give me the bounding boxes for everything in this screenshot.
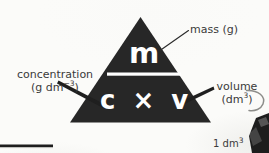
label-volume-unit-prefix: (dm [221, 93, 243, 106]
label-volume: volume (dm3) [212, 80, 262, 106]
label-mass: mass (g) [190, 23, 238, 36]
label-concentration-unit-prefix: (g dm [31, 81, 63, 94]
label-concentration: concentration (g dm−3) [7, 68, 103, 94]
figure-canvas: m c × v mass (g) concentration (g dm−3) … [0, 0, 269, 153]
triangle-denominator-c-times-v: c × v [100, 86, 188, 114]
horizontal-rule-shadow [0, 147, 53, 148]
horizontal-rule-bottom-left [0, 145, 53, 148]
triangle-numerator-m: m [108, 38, 180, 68]
label-concentration-unit-suffix: ) [75, 81, 79, 94]
label-cube-volume-value: 1 dm [213, 138, 239, 149]
label-volume-unit-suffix: ) [248, 93, 252, 106]
label-concentration-unit-exponent: −3 [64, 79, 75, 88]
label-cube-volume-exponent: 3 [239, 136, 244, 145]
fraction-bar [107, 73, 181, 76]
label-volume-line1: volume [212, 80, 262, 93]
label-concentration-line2: (g dm−3) [7, 81, 103, 94]
label-concentration-line1: concentration [7, 68, 103, 81]
label-cube-volume: 1 dm3 [213, 137, 243, 150]
label-volume-line2: (dm3) [212, 93, 262, 106]
cube-illustration-partial [249, 113, 269, 153]
